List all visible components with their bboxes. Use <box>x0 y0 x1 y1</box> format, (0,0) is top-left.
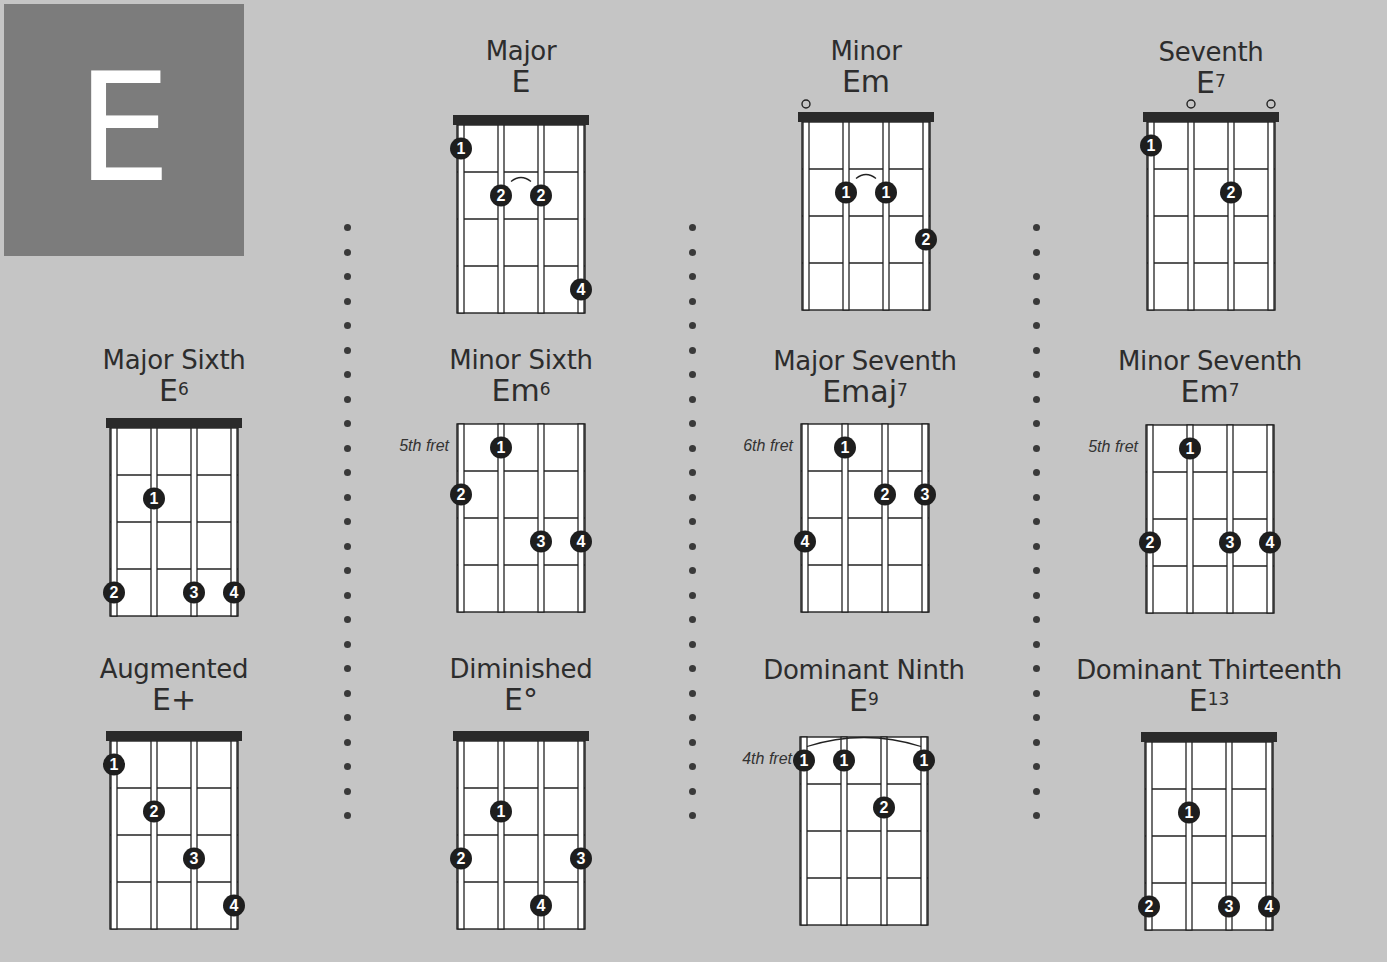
chord-symbol: Em6 <box>371 375 671 407</box>
string <box>1228 122 1234 310</box>
chord-symbol-superscript: 7 <box>897 380 908 400</box>
string <box>923 122 929 310</box>
separator-dot <box>344 396 351 403</box>
finger-dot: 1 <box>875 182 897 204</box>
separator-dot <box>1033 616 1040 623</box>
finger-number: 1 <box>800 752 809 769</box>
chord-symbol-base: E <box>512 64 531 99</box>
separator-dot <box>344 567 351 574</box>
string <box>578 741 584 929</box>
chord-symbol-superscript: 7 <box>1229 380 1240 400</box>
chord-name: Major Seventh <box>715 346 1015 376</box>
chord-symbol: Emaj7 <box>715 376 1015 408</box>
separator-dot <box>344 812 351 819</box>
separator-dot <box>689 543 696 550</box>
separator-dot <box>344 592 351 599</box>
separator-dot <box>1033 543 1040 550</box>
fret-position-label: 4th fret <box>742 750 792 768</box>
fretboard: 1234 <box>449 717 593 945</box>
separator-dot <box>1033 347 1040 354</box>
chord-symbol-base: E° <box>504 682 538 717</box>
finger-dot: 2 <box>450 848 472 870</box>
finger-dot: 2 <box>1220 182 1242 204</box>
chord-symbol-superscript: 6 <box>178 379 189 399</box>
open-string-icon <box>802 100 810 108</box>
finger-number: 2 <box>457 850 466 867</box>
finger-dot: 1 <box>833 750 855 772</box>
finger-number: 4 <box>1265 898 1274 915</box>
separator-dot <box>344 469 351 476</box>
separator-dot <box>689 788 696 795</box>
separator-dot <box>344 273 351 280</box>
key-letter: E <box>4 48 244 208</box>
finger-number: 4 <box>230 897 239 914</box>
separator-dot <box>1033 567 1040 574</box>
finger-dot: 2 <box>874 484 896 506</box>
separator-dot <box>689 592 696 599</box>
separator-dot <box>344 494 351 501</box>
chord-symbol-base: E <box>159 373 178 408</box>
finger-number: 1 <box>882 184 891 201</box>
finger-dot: 1 <box>490 801 512 823</box>
separator-dot <box>344 347 351 354</box>
chord-symbol-base: Emaj <box>822 374 897 409</box>
finger-number: 2 <box>110 584 119 601</box>
finger-number: 3 <box>1225 898 1234 915</box>
separator-dot <box>344 224 351 231</box>
separator-dot <box>344 788 351 795</box>
nut <box>453 115 589 125</box>
finger-dot: 4 <box>530 895 552 917</box>
separator-dot <box>344 616 351 623</box>
finger-dot: 4 <box>223 895 245 917</box>
finger-number: 1 <box>497 439 506 456</box>
separator-dot <box>344 665 351 672</box>
finger-dot: 1 <box>143 488 165 510</box>
chord-name: Dominant Thirteenth <box>1059 655 1359 685</box>
separator-dot <box>344 690 351 697</box>
finger-dot: 3 <box>1218 896 1240 918</box>
chord-symbol-base: E <box>1196 65 1215 100</box>
finger-dot: 4 <box>1258 896 1280 918</box>
finger-dot: 1 <box>450 138 472 160</box>
finger-number: 3 <box>190 850 199 867</box>
chord-symbol-base: Em <box>842 64 890 99</box>
string <box>538 125 544 313</box>
separator-dot <box>689 763 696 770</box>
finger-dot: 1 <box>913 750 935 772</box>
chord-name: Minor Seventh <box>1060 346 1360 376</box>
finger-number: 3 <box>537 533 546 550</box>
string <box>803 122 809 310</box>
fretboard: 1234 <box>793 410 937 638</box>
finger-dot: 4 <box>570 531 592 553</box>
finger-dot: 2 <box>873 797 895 819</box>
separator-dot <box>1033 641 1040 648</box>
separator-dot <box>689 518 696 525</box>
finger-number: 2 <box>880 799 889 816</box>
chord-symbol-base: E <box>849 683 868 718</box>
separator-dot <box>689 469 696 476</box>
finger-number: 4 <box>1266 534 1275 551</box>
separator-dot <box>1033 812 1040 819</box>
separator-dot <box>689 347 696 354</box>
separator-dot <box>344 445 351 452</box>
open-string-icon <box>1267 100 1275 108</box>
finger-number: 1 <box>110 756 119 773</box>
chord-symbol-base: E+ <box>152 682 196 717</box>
finger-number: 4 <box>577 281 586 298</box>
nut <box>798 112 934 122</box>
separator-dot <box>689 567 696 574</box>
separator-dot <box>689 322 696 329</box>
chord-symbol: E13 <box>1059 685 1359 717</box>
string <box>538 424 544 612</box>
separator-dot <box>689 224 696 231</box>
finger-number: 2 <box>1227 184 1236 201</box>
chord-name: Major Sixth <box>24 345 324 375</box>
separator-dot <box>1033 249 1040 256</box>
finger-number: 1 <box>497 803 506 820</box>
string <box>1227 425 1233 613</box>
string <box>498 741 504 929</box>
fretboard: 1234 <box>449 410 593 638</box>
separator-dot <box>344 420 351 427</box>
chord-name: Dominant Ninth <box>714 655 1014 685</box>
string <box>458 424 464 612</box>
